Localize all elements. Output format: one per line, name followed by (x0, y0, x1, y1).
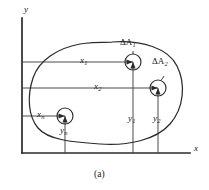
x2-label: x2 (94, 82, 101, 91)
x-axis-label-text: x (194, 143, 198, 153)
xn-subscript: n (41, 113, 44, 120)
y2-label: y2 (153, 114, 160, 123)
arrowhead-yn (62, 116, 67, 123)
delta-a1-subscript: 1 (133, 41, 136, 48)
x1-label: x1 (80, 56, 87, 65)
tick-delta-a2 (161, 76, 164, 81)
delta-a1-label: ΔA1 (120, 38, 136, 47)
arrowhead-xn (59, 113, 66, 118)
delta-a2-label: ΔA2 (152, 57, 168, 66)
arrowheads-group (59, 59, 161, 122)
delta-a2-subscript: 2 (165, 60, 168, 67)
figure-caption: (a) (94, 170, 105, 180)
horizontal-leader-lines (22, 62, 158, 116)
y-axis-label: y (24, 5, 28, 14)
figure-caption-text: (a) (94, 169, 105, 179)
yn-label: yn (60, 126, 67, 135)
y1-subscript: 1 (132, 117, 135, 124)
axes-group (22, 18, 190, 153)
x-axis-label: x (194, 144, 198, 153)
xn-label: xn (37, 110, 44, 119)
arrowhead-y1 (130, 62, 135, 69)
area-elements-group (57, 54, 166, 124)
figure-drawing (0, 0, 209, 190)
arrowhead-x2 (152, 85, 159, 90)
x2-subscript: 2 (98, 85, 101, 92)
yn-subscript: n (64, 129, 67, 136)
delta-a1-text: ΔA (120, 37, 132, 47)
x1-subscript: 1 (84, 59, 87, 66)
figure-container: y x ΔA1 ΔA2 x1 x2 xn y1 y2 yn (a) (0, 0, 209, 190)
y1-label: y1 (128, 114, 135, 123)
arrowhead-x1 (127, 59, 134, 64)
y-axis-label-text: y (24, 4, 28, 14)
arrowhead-y2 (155, 88, 160, 95)
delta-a2-text: ΔA (152, 56, 164, 66)
y2-subscript: 2 (157, 117, 160, 124)
